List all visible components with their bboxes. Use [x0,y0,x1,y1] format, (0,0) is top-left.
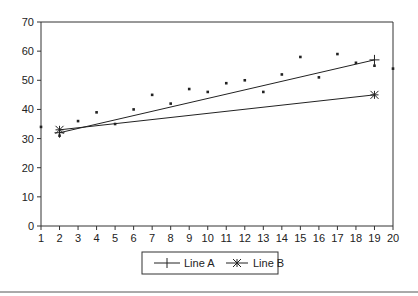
x-axis-ticks: 1234567891011121314151617181920 [38,226,399,244]
x-tick-label: 8 [168,232,174,244]
x-tick-label: 9 [186,232,192,244]
x-tick-label: 4 [94,232,100,244]
data-point [95,111,98,114]
y-tick-label: 0 [28,220,34,232]
data-point [318,76,321,79]
data-point [281,73,284,76]
x-tick-label: 15 [294,232,306,244]
x-tick-label: 5 [112,232,118,244]
scatter-points [40,53,395,137]
x-tick-label: 6 [131,232,137,244]
x-tick-label: 2 [56,232,62,244]
legend: Line A Line B [142,252,284,274]
x-tick-label: 18 [350,232,362,244]
data-point [188,88,191,91]
x-tick-label: 14 [276,232,288,244]
y-tick-label: 30 [22,133,34,145]
data-point [262,91,265,94]
x-tick-label: 1 [38,232,44,244]
y-tick-label: 40 [22,103,34,115]
data-point [299,56,302,59]
x-tick-label: 19 [368,232,380,244]
data-point [225,82,228,85]
data-point [206,91,209,94]
x-tick-label: 3 [75,232,81,244]
data-point [243,79,246,82]
data-point [151,94,154,97]
legend-label: Line B [253,257,284,269]
data-point [40,126,43,129]
x-tick-label: 20 [387,232,399,244]
y-tick-label: 20 [22,162,34,174]
y-tick-label: 10 [22,191,34,203]
y-tick-label: 50 [22,74,34,86]
trend-lines [55,55,380,138]
x-tick-label: 13 [257,232,269,244]
y-axis-ticks: 010203040506070 [22,16,41,232]
y-tick-label: 70 [22,16,34,28]
x-tick-label: 7 [149,232,155,244]
legend-label: Line A [184,257,215,269]
axes [41,22,393,226]
y-tick-label: 60 [22,45,34,57]
chart: 010203040506070 123456789101112131415161… [0,0,418,296]
x-tick-label: 17 [331,232,343,244]
data-point [169,102,172,105]
data-point [336,53,339,56]
x-tick-label: 11 [221,232,232,244]
data-point [77,120,80,123]
data-point [392,67,395,70]
x-tick-label: 12 [239,232,251,244]
x-tick-label: 10 [202,232,214,244]
x-tick-label: 16 [313,232,325,244]
data-point [132,108,135,111]
series-line-b [56,91,379,134]
